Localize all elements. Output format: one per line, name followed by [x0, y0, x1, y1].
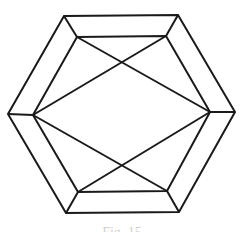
outer-hexagon [8, 15, 235, 213]
facet-connector [167, 191, 179, 212]
facet-connector [8, 114, 33, 115]
figure-caption: Fig. 15 [0, 226, 244, 232]
facet-connector [66, 192, 78, 213]
facet-connector [166, 15, 178, 36]
inner-polygon [33, 36, 210, 192]
facet-connector [64, 16, 77, 37]
hexagon-gem-diagram [0, 0, 244, 232]
